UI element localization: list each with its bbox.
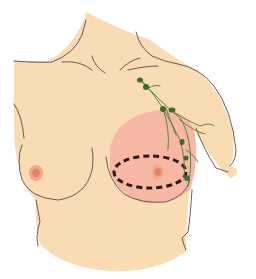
- lymph-node: [180, 139, 185, 145]
- lymph-node: [160, 106, 166, 112]
- lymph-node: [169, 108, 176, 113]
- medical-illustration: Female torso, anterior view, right-side …: [0, 0, 256, 279]
- right-nipple: [152, 165, 164, 179]
- lymph-node: [185, 175, 190, 181]
- lymph-node: [143, 84, 149, 90]
- lymph-node: [137, 78, 143, 83]
- left-nipple: [29, 165, 43, 181]
- lymph-node: [184, 156, 189, 161]
